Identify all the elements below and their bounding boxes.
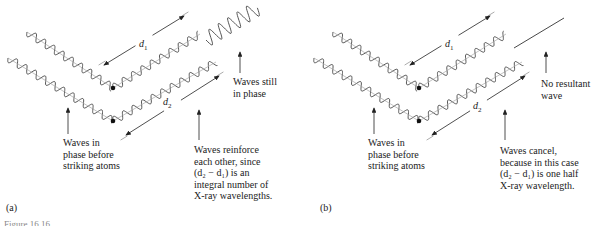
x-ray-wave (333, 32, 417, 91)
d1-arrow (410, 46, 441, 65)
atom-dot (111, 119, 116, 124)
x-ray-wave (314, 58, 418, 123)
panel-label-a: (a) (6, 202, 17, 213)
diffraction-diagram (0, 0, 599, 226)
atom-dot (417, 119, 422, 124)
x-ray-wave (8, 58, 112, 123)
outgoing-annotation-b: No resultant wave (541, 78, 590, 101)
panel-label-b: (b) (320, 202, 332, 213)
d2-label-a: d2 (163, 96, 172, 110)
d2-arrow (487, 76, 525, 100)
d1-label-a: d1 (139, 38, 148, 52)
d1-label-b: d1 (445, 38, 454, 52)
incoming-annotation-a: Waves in phase before striking atoms (63, 137, 120, 172)
outgoing-annotation-a: Waves still in phase (233, 76, 277, 99)
explanation-annotation-b: Waves cancel, because in this case (d₂ −… (500, 145, 579, 191)
explanation-annotation-a: Waves reinforce each other, since (d₂ − … (194, 144, 272, 202)
flat-line (514, 18, 564, 48)
x-ray-wave (206, 6, 259, 45)
d1-arrow (459, 16, 490, 35)
atom-dot (111, 86, 116, 91)
x-ray-wave (27, 32, 111, 91)
figure-caption: Figure 16.16 (4, 219, 50, 226)
incoming-annotation-b: Waves in phase before striking atoms (368, 137, 425, 172)
d2-arrow (181, 76, 219, 100)
d1-arrow (104, 46, 135, 65)
d2-label-b: d2 (473, 100, 482, 114)
d1-arrow (153, 16, 184, 35)
atom-dot (417, 86, 422, 91)
